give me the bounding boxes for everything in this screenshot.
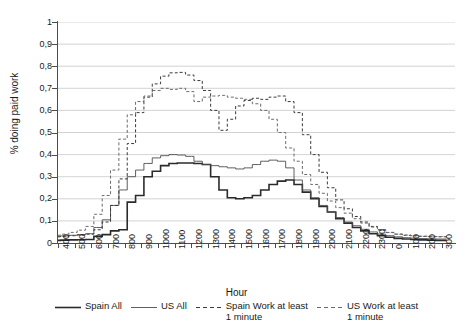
x-tick-mark: [241, 243, 242, 248]
x-tick-label: 600: [95, 234, 104, 249]
x-tick-label: 1900: [312, 229, 321, 249]
x-tick-label: 1000: [162, 229, 171, 249]
x-tick-mark: [375, 243, 376, 248]
x-tick-mark: [308, 243, 309, 248]
x-tick-label: 1600: [262, 229, 271, 249]
legend-label: US All: [161, 300, 187, 311]
legend-item[interactable]: US Work at least 1 minute: [317, 300, 418, 322]
x-tick-label: 300: [445, 234, 454, 249]
x-tick-mark: [191, 243, 192, 248]
x-tick-label: 1500: [245, 229, 254, 249]
paid-work-by-hour-chart: 10,90,80,70,60,50,40,30,20,10 % doing pa…: [0, 0, 473, 335]
legend-item[interactable]: Spain All: [55, 300, 122, 312]
legend-swatch-dashed-icon: [196, 303, 222, 312]
x-tick-label: 1800: [295, 229, 304, 249]
x-tick-label: 1400: [228, 229, 237, 249]
x-tick-mark: [325, 243, 326, 248]
x-tick-mark: [425, 243, 426, 248]
legend-item[interactable]: US All: [131, 300, 187, 312]
x-tick-mark: [408, 243, 409, 248]
x-tick-label: 1100: [178, 230, 187, 249]
x-tick-mark: [58, 243, 59, 248]
x-tick-mark: [225, 243, 226, 248]
legend-item[interactable]: Spain Work at least 1 minute: [196, 300, 308, 322]
x-tick-mark: [208, 243, 209, 248]
x-tick-mark: [392, 243, 393, 248]
x-tick-label: 2000: [328, 229, 337, 249]
x-tick-mark: [91, 243, 92, 248]
x-tick-label: 900: [145, 234, 154, 249]
x-tick-label: 400: [62, 234, 71, 249]
legend-swatch-dashed-icon: [317, 303, 343, 312]
x-tick-mark: [442, 243, 443, 248]
x-tick-label: 1200: [195, 229, 204, 249]
x-tick-label: 2200: [362, 229, 371, 249]
x-tick-label: 1300: [212, 229, 221, 249]
legend-label: US Work at least 1 minute: [347, 300, 418, 322]
x-axis-title: Hour: [0, 287, 473, 298]
x-tick-mark: [292, 243, 293, 248]
x-tick-mark: [175, 243, 176, 248]
x-tick-mark: [258, 243, 259, 248]
x-tick-label: 2100: [345, 229, 354, 249]
x-tick-mark: [275, 243, 276, 248]
x-tick-label: 100: [412, 234, 421, 249]
legend-swatch-solid-icon: [55, 303, 81, 312]
legend-label: Spain All: [85, 300, 122, 311]
x-tick-label: 500: [78, 234, 87, 249]
x-tick-mark: [141, 243, 142, 248]
legend-label: Spain Work at least 1 minute: [226, 300, 308, 322]
x-tick-mark: [358, 243, 359, 248]
x-tick-mark: [158, 243, 159, 248]
x-axis-tick-labels: 4005006007008009001000110012001300140015…: [0, 0, 473, 335]
x-tick-mark: [342, 243, 343, 248]
x-tick-mark: [125, 243, 126, 248]
x-tick-label: 800: [128, 234, 137, 249]
chart-legend: Spain AllUS AllSpain Work at least 1 min…: [0, 300, 473, 322]
x-tick-label: 1700: [278, 229, 287, 249]
x-tick-label: 200: [428, 234, 437, 249]
x-tick-label: 700: [112, 234, 121, 249]
x-tick-mark: [108, 243, 109, 248]
x-tick-label: 2300: [378, 229, 387, 249]
x-tick-label: 0: [395, 244, 404, 249]
x-tick-mark: [75, 243, 76, 248]
legend-swatch-solid-icon: [131, 303, 157, 312]
